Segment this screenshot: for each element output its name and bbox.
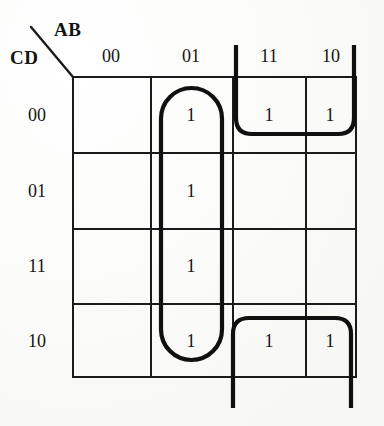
row-header-01: 01 [14, 181, 60, 202]
cell-r11-c01: 1 [176, 256, 206, 277]
column-header-10: 10 [301, 46, 361, 67]
column-header-00: 00 [81, 46, 141, 67]
cell-r10-c11: 1 [254, 331, 284, 352]
cell-r10-c01: 1 [176, 331, 206, 352]
axis-label-columns: AB [54, 19, 81, 41]
cell-r01-c01: 1 [176, 181, 206, 202]
grid-hline-top [72, 76, 357, 78]
grid-vline-left [72, 76, 74, 378]
axis-label-rows: CD [10, 47, 38, 69]
column-header-01: 01 [161, 46, 221, 67]
grid-vline-1 [150, 76, 152, 378]
grid-vline-right [355, 76, 357, 378]
cell-r10-c10: 1 [315, 331, 345, 352]
row-header-10: 10 [14, 331, 60, 352]
grid-hline-bottom [72, 376, 357, 378]
grid-vline-2 [232, 76, 234, 378]
cell-r00-c01: 1 [176, 105, 206, 126]
cell-r00-c10: 1 [315, 105, 345, 126]
row-header-11: 11 [14, 256, 60, 277]
grid-hline-2 [72, 228, 357, 230]
grid-vline-3 [305, 76, 307, 378]
grid-hline-3 [72, 303, 357, 305]
karnaugh-map-diagram: AB CD 00 01 11 10 00 01 11 10 1 1 1 1 1 … [0, 0, 384, 426]
cell-r00-c11: 1 [254, 105, 284, 126]
grid-hline-1 [72, 152, 357, 154]
row-header-00: 00 [14, 105, 60, 126]
column-header-11: 11 [239, 46, 299, 67]
